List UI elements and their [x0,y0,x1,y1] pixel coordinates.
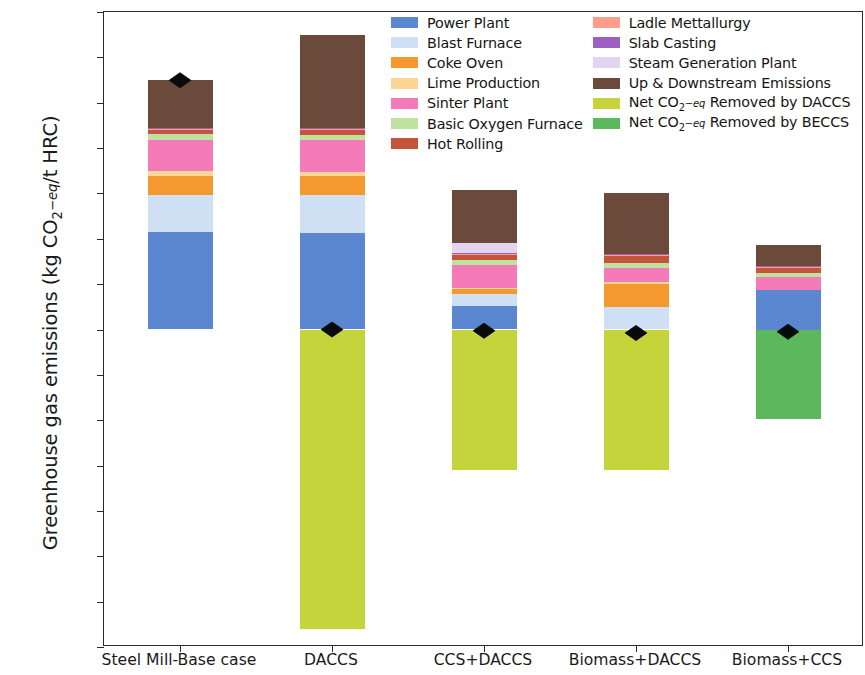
legend-swatch [593,57,620,68]
y-axis-tick [97,647,104,648]
legend-item[interactable]: Power Plant [391,13,583,32]
legend-item[interactable]: Coke Oven [391,53,583,72]
legend-swatch [593,17,620,28]
bar-segment [756,273,821,278]
legend-item[interactable]: Hot Rolling [391,134,583,153]
bar-segment [300,130,365,135]
y-axis-tick [97,602,104,603]
y-axis-tick [97,420,104,421]
bar-segment [300,128,365,129]
legend-item[interactable]: Ladle Mettallurgy [593,13,851,32]
bar-segment [148,171,213,176]
bar-segment [452,243,517,253]
bar-segment [604,330,669,470]
bar-segment [604,255,669,256]
legend-item[interactable]: Slab Casting [593,33,851,52]
bar-segment [604,193,669,255]
bar-segment [452,289,517,294]
legend-item[interactable]: Net CO2−eq Removed by BECCS [593,114,851,133]
legend-swatch [391,37,418,48]
bar-segment [452,330,517,471]
y-axis-title-sub: 2 [50,211,65,219]
legend-column: Ladle MettallurgySlab CastingSteam Gener… [593,13,851,153]
x-axis-tick-label: Steel Mill-Base case [102,651,257,669]
y-axis-tick [97,57,104,58]
legend-swatch [391,78,418,89]
legend-column: Power PlantBlast FurnaceCoke OvenLime Pr… [391,13,583,153]
bar-segment [756,330,821,420]
bar-segment [148,176,213,195]
legend-label: Ladle Mettallurgy [629,15,751,31]
bar-segment [300,330,365,629]
y-axis-title-prefix: Greenhouse gas emissions (kg CO [39,219,62,550]
y-axis-tick [97,148,104,149]
y-axis-tick [97,375,104,376]
bar-segment [756,277,821,289]
legend-item[interactable]: Net CO2−eq Removed by DACCS [593,94,851,113]
legend-label: Basic Oxygen Furnace [427,116,583,132]
bar-segment [300,129,365,130]
bar-segment [604,282,669,284]
x-axis-tick-label: CCS+DACCS [434,651,533,669]
bar-segment [300,176,365,195]
bar-segment [604,284,669,307]
bar-segment [452,190,517,243]
bar-segment [148,140,213,172]
legend-label: Net CO2−eq Removed by DACCS [629,94,851,113]
bar-segment [604,254,669,255]
legend-item[interactable]: Basic Oxygen Furnace [391,114,583,133]
legend-swatch [593,98,620,109]
legend-label: Steam Generation Plant [629,55,797,71]
bar-segment [300,135,365,140]
bar-segment [756,267,821,268]
legend-swatch [391,118,418,129]
legend-swatch [593,37,620,48]
y-axis-tick [97,466,104,467]
legend-label: Blast Furnace [427,35,522,51]
y-axis-title-suffix: /t HRC) [39,116,62,184]
bar-segment [300,233,365,330]
legend-swatch [593,78,620,89]
bar-segment [756,266,821,267]
y-axis-title-eq: −eq [45,184,60,211]
bar-segment [756,245,821,266]
bar-segment [300,195,365,232]
legend-label: Hot Rolling [427,136,503,152]
bar-segment [604,263,669,268]
legend-item[interactable]: Lime Production [391,74,583,93]
legend-item[interactable]: Sinter Plant [391,94,583,113]
bar-segment [148,128,213,129]
y-axis-tick [97,284,104,285]
y-axis-tick [97,556,104,557]
legend-item[interactable]: Blast Furnace [391,33,583,52]
bar-segment [756,290,821,330]
legend-swatch [391,17,418,28]
legend-label: Lime Production [427,75,540,91]
legend-label: Up & Downstream Emissions [629,75,831,91]
legend-label: Sinter Plant [427,95,508,111]
bar-segment [604,256,669,262]
bar-segment [452,288,517,290]
legend-item[interactable]: Steam Generation Plant [593,53,851,72]
x-axis-tick-label: Biomass+DACCS [569,651,701,669]
legend-label: Coke Oven [427,55,503,71]
bar-segment [452,255,517,260]
bar-segment [300,140,365,172]
y-axis-tick [97,511,104,512]
legend-swatch [391,138,418,149]
bar-segment [148,232,213,330]
bar-segment [300,172,365,177]
chart-legend: Power PlantBlast FurnaceCoke OvenLime Pr… [391,13,850,153]
bar-segment [452,294,517,306]
legend-swatch [391,98,418,109]
legend-item[interactable]: Up & Downstream Emissions [593,74,851,93]
chart-figure: Greenhouse gas emissions (kg CO2−eq/t HR… [0,0,865,675]
y-axis-tick [97,103,104,104]
bar-segment [452,260,517,265]
y-axis-tick [97,193,104,194]
legend-label: Net CO2−eq Removed by BECCS [629,114,849,133]
legend-label: Power Plant [427,15,509,31]
bar-segment [452,265,517,287]
bar-segment [148,195,213,232]
bar-segment [148,129,213,130]
